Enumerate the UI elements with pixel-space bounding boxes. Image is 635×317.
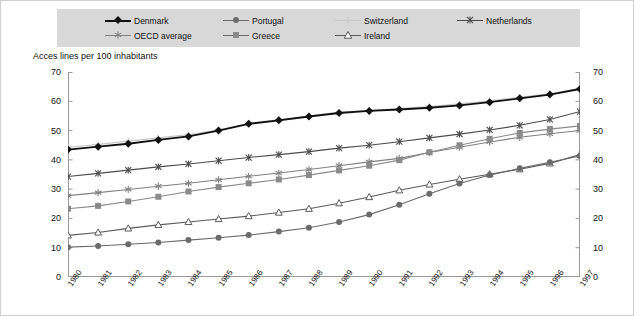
data-point [546, 91, 554, 99]
data-point [216, 235, 222, 241]
chart-svg [68, 72, 580, 277]
data-point [576, 85, 580, 93]
legend-item-label: Denmark [134, 16, 168, 26]
data-point [517, 130, 523, 136]
legend-item-greece[interactable]: Greece [223, 30, 335, 41]
data-point [426, 191, 432, 197]
data-point [245, 120, 253, 128]
data-point [155, 194, 161, 200]
legend-item-netherlands[interactable]: Netherlands [457, 15, 575, 26]
data-point [276, 176, 282, 182]
data-point [577, 153, 580, 159]
data-point [456, 101, 464, 109]
data-point [185, 188, 191, 194]
legend-item-switzerland[interactable]: Switzerland [335, 15, 457, 26]
data-point [425, 104, 433, 112]
data-point [125, 198, 131, 204]
legend-item-label: Ireland [364, 31, 390, 41]
y-axis-tick-label: 40 [39, 155, 61, 165]
y-axis-tick-label: 70 [39, 67, 61, 77]
data-point [426, 149, 432, 155]
data-point [68, 244, 71, 250]
data-point [457, 181, 463, 187]
data-point [276, 229, 282, 235]
legend-item-denmark[interactable]: Denmark [105, 15, 223, 26]
series-switzerland [68, 85, 580, 150]
data-point [216, 184, 222, 190]
legend-item-label: Switzerland [364, 16, 408, 26]
data-point [547, 159, 553, 165]
y-axis-tick-label: 50 [593, 126, 615, 136]
data-point [396, 202, 402, 208]
data-point [577, 123, 580, 129]
data-point [335, 109, 343, 117]
data-point [215, 127, 223, 135]
triangle-marker [335, 30, 361, 41]
data-point [305, 113, 313, 121]
y-axis-tick-label: 60 [39, 96, 61, 106]
data-point [366, 163, 372, 169]
chart-page: DenmarkPortugalSwitzerlandNetherlandsOEC… [0, 0, 635, 317]
series-denmark [68, 85, 580, 154]
data-point [246, 180, 252, 186]
y-axis-tick-label: 20 [593, 213, 615, 223]
data-point [547, 126, 553, 132]
data-point [396, 157, 402, 163]
data-point [457, 142, 463, 148]
data-point [336, 219, 342, 225]
data-point [155, 239, 161, 245]
data-point [486, 98, 494, 106]
y-axis-tick-label: 10 [39, 243, 61, 253]
series-oecd-average [68, 127, 580, 199]
data-point [275, 116, 283, 124]
asterisk-marker [105, 30, 131, 41]
plot-area [68, 72, 580, 277]
y-axis-tick-label: 0 [593, 272, 615, 282]
data-point [68, 206, 71, 212]
data-point [336, 167, 342, 173]
chart-legend: DenmarkPortugalSwitzerlandNetherlandsOEC… [57, 9, 580, 47]
series-netherlands [68, 108, 580, 180]
data-point [184, 132, 192, 140]
y-axis-tick-label: 10 [593, 243, 615, 253]
x-marker [457, 15, 483, 26]
data-point [487, 172, 493, 178]
y-axis-tick-label: 60 [593, 96, 615, 106]
data-point [487, 136, 493, 142]
y-axis-title: Acces lines per 100 inhabitants [33, 51, 158, 61]
legend-item-label: OECD average [134, 31, 192, 41]
legend-item-label: Portugal [252, 16, 284, 26]
data-point [365, 107, 373, 115]
data-point [125, 241, 131, 247]
data-point [395, 105, 403, 113]
y-axis-tick-label: 30 [593, 184, 615, 194]
legend-item-oecd-average[interactable]: OECD average [105, 30, 223, 41]
y-axis-tick-label: 20 [39, 213, 61, 223]
data-point [95, 203, 101, 209]
legend-item-label: Netherlands [486, 16, 532, 26]
data-point [306, 172, 312, 178]
y-axis-tick-label: 70 [593, 67, 615, 77]
data-point [366, 212, 372, 218]
square-marker [223, 30, 249, 41]
diamond-marker [105, 15, 131, 26]
y-axis-tick-label: 50 [39, 126, 61, 136]
legend-item-ireland[interactable]: Ireland [335, 30, 457, 41]
plus-marker [335, 15, 361, 26]
y-axis-tick-label: 0 [39, 272, 61, 282]
legend-item-portugal[interactable]: Portugal [223, 15, 335, 26]
data-point [306, 225, 312, 231]
data-point [246, 232, 252, 238]
data-point [185, 237, 191, 243]
data-point [95, 243, 101, 249]
y-axis-tick-label: 30 [39, 184, 61, 194]
circle-marker [223, 15, 249, 26]
data-point [517, 165, 523, 171]
legend-item-label: Greece [252, 31, 280, 41]
data-point [516, 94, 524, 102]
y-axis-tick-label: 40 [593, 155, 615, 165]
